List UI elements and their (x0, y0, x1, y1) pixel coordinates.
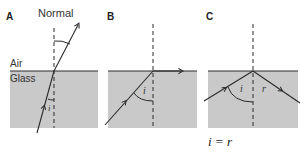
panel-label-b: B (107, 11, 114, 22)
glass-block-b (108, 71, 197, 128)
angle-arc-air-a (54, 41, 70, 44)
ray-in-air-a (54, 25, 78, 71)
equation-label: i = r (208, 134, 232, 150)
angle-label-a: i (48, 103, 51, 113)
panel-c (204, 24, 300, 128)
glass-label: Glass (10, 73, 36, 84)
angle-label-incident-c: i (240, 83, 243, 94)
air-label: Air (10, 58, 22, 69)
panel-label-a: A (6, 11, 13, 22)
panel-b (105, 24, 197, 128)
normal-label: Normal (38, 7, 73, 19)
panel-label-c: C (206, 11, 213, 22)
refraction-diagram (0, 0, 306, 152)
glass-block-c (208, 71, 298, 128)
angle-label-b: i (143, 85, 146, 96)
angle-label-reflected-c: r (262, 83, 266, 94)
